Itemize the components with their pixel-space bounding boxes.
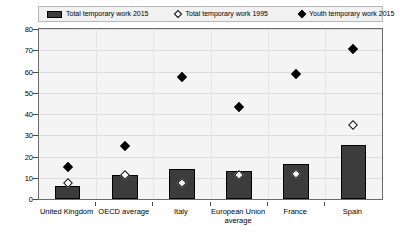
category-separator: [325, 29, 326, 199]
y-tick-label: 10: [13, 174, 33, 183]
y-tick-label: 0: [13, 195, 33, 204]
y-tick-mark: [33, 157, 38, 158]
chart-legend: Total temporary work 2015 Total temporar…: [38, 6, 383, 22]
marker-youth-temporary-work-2015: [291, 69, 301, 79]
x-tick-label-line: Spain: [312, 207, 392, 216]
y-tick-mark: [33, 50, 38, 51]
bar-total-temporary-work-2015: [341, 145, 367, 199]
y-tick-mark: [33, 72, 38, 73]
y-tick-mark: [33, 93, 38, 94]
x-tick-mark: [210, 202, 211, 206]
x-tick-mark: [152, 202, 153, 206]
y-tick-label: 20: [13, 153, 33, 162]
legend-item-youth-2015: Youth temporary work 2015: [298, 10, 394, 18]
marker-youth-temporary-work-2015: [63, 162, 73, 172]
y-tick-label: 40: [13, 110, 33, 119]
y-tick-label: 80: [13, 25, 33, 34]
x-tick-mark: [267, 202, 268, 206]
x-tick-label-line: average: [198, 216, 278, 225]
y-axis: 01020304050607080: [0, 28, 33, 200]
marker-youth-temporary-work-2015: [234, 102, 244, 112]
open-diamond-icon: [174, 10, 182, 18]
legend-label: Total temporary work 2015: [66, 10, 148, 18]
y-tick-label: 50: [13, 89, 33, 98]
y-tick-mark: [33, 29, 38, 30]
y-tick-mark: [33, 114, 38, 115]
category-separator: [211, 29, 212, 199]
y-tick-mark: [33, 135, 38, 136]
y-tick-label: 30: [13, 131, 33, 140]
marker-total-temporary-work-1995: [348, 120, 358, 130]
bar-swatch-icon: [47, 11, 62, 18]
x-axis: United KingdomOECD averageItalyEuropean …: [38, 202, 383, 242]
y-tick-mark: [33, 178, 38, 179]
x-tick-label: Spain: [312, 207, 392, 216]
y-tick-label: 70: [13, 46, 33, 55]
legend-item-total-1995: Total temporary work 1995: [174, 10, 267, 18]
x-tick-mark: [95, 202, 96, 206]
legend-label: Total temporary work 1995: [185, 10, 267, 18]
legend-item-total-2015: Total temporary work 2015: [47, 10, 148, 18]
y-tick-label: 60: [13, 68, 33, 77]
marker-youth-temporary-work-2015: [120, 141, 130, 151]
plot-area: [38, 28, 383, 200]
category-separator: [268, 29, 269, 199]
filled-diamond-icon: [298, 10, 306, 18]
temporary-work-chart: Total temporary work 2015 Total temporar…: [0, 0, 400, 245]
marker-youth-temporary-work-2015: [348, 44, 358, 54]
x-tick-mark: [324, 202, 325, 206]
category-separator: [96, 29, 97, 199]
y-tick-mark: [33, 199, 38, 200]
legend-label: Youth temporary work 2015: [309, 10, 394, 18]
marker-youth-temporary-work-2015: [177, 72, 187, 82]
category-separator: [153, 29, 154, 199]
